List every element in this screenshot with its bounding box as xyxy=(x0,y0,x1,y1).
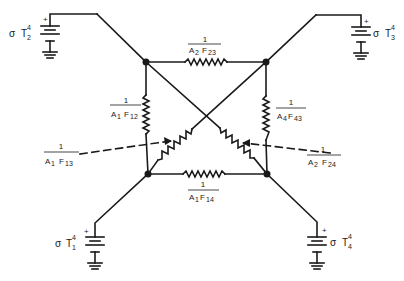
source-t4 xyxy=(267,174,326,269)
svg-text:+: + xyxy=(43,15,48,24)
label-t2: + σ T 2 4 xyxy=(9,15,48,41)
svg-text:1: 1 xyxy=(321,145,326,154)
svg-text:4: 4 xyxy=(72,234,76,241)
source-t2 xyxy=(41,14,97,58)
svg-text:4: 4 xyxy=(283,115,287,122)
label-t3: + σ T 3 4 xyxy=(364,17,395,41)
svg-text:1: 1 xyxy=(51,160,55,167)
svg-text:+: + xyxy=(322,226,327,235)
sigma-symbol: σ xyxy=(9,28,16,39)
svg-text:1: 1 xyxy=(203,35,208,44)
wire-t2 xyxy=(50,14,97,26)
svg-text:1: 1 xyxy=(59,142,64,151)
label-r24: 1 A 2 F 24 xyxy=(307,145,341,168)
wire-t1 xyxy=(95,174,148,237)
svg-text:1: 1 xyxy=(201,180,206,189)
sigma-symbol: σ xyxy=(373,28,380,39)
svg-text:2: 2 xyxy=(314,161,318,168)
svg-text:1: 1 xyxy=(124,96,129,105)
svg-text:3: 3 xyxy=(391,34,395,41)
resistor-r24 xyxy=(146,62,267,174)
node-top-right xyxy=(263,59,270,66)
label-r13: 1 A 1 F 13 xyxy=(44,142,79,167)
svg-text:F: F xyxy=(202,46,207,55)
svg-text:24: 24 xyxy=(328,161,336,168)
svg-text:F: F xyxy=(288,112,293,121)
radiation-network-diagram: + σ T 2 4 + σ T 3 4 + σ T 1 4 + σ T 4 4 … xyxy=(0,0,404,281)
label-t1: + σ T 1 4 xyxy=(55,227,89,251)
node-bottom-left xyxy=(145,171,152,178)
resistor-r23 xyxy=(146,59,266,65)
svg-text:4: 4 xyxy=(27,24,31,31)
resistor-r12 xyxy=(143,62,149,174)
svg-text:F: F xyxy=(322,158,327,167)
label-r14: 1 A 1 F 14 xyxy=(188,180,219,203)
svg-text:2: 2 xyxy=(27,34,31,41)
wire-t2-node xyxy=(97,14,146,62)
sigma-symbol: σ xyxy=(55,238,62,249)
svg-text:4: 4 xyxy=(348,233,352,240)
svg-text:1: 1 xyxy=(195,196,199,203)
resistor-r43 xyxy=(263,62,269,174)
wire-t3-node xyxy=(266,15,316,62)
svg-text:F: F xyxy=(124,110,129,119)
svg-text:43: 43 xyxy=(294,115,302,122)
svg-text:+: + xyxy=(84,227,89,236)
svg-text:12: 12 xyxy=(130,113,138,120)
svg-text:1: 1 xyxy=(289,98,294,107)
svg-text:+: + xyxy=(364,17,369,26)
svg-text:13: 13 xyxy=(65,160,73,167)
sigma-symbol: σ xyxy=(330,237,337,248)
label-r23: 1 A 2 F 23 xyxy=(188,35,221,56)
svg-text:F: F xyxy=(200,193,205,202)
leader-r24 xyxy=(244,143,330,153)
wire-t3 xyxy=(316,15,361,27)
resistor-r14 xyxy=(148,171,267,177)
source-t3 xyxy=(316,15,370,59)
svg-text:1: 1 xyxy=(117,113,121,120)
svg-text:1: 1 xyxy=(72,244,76,251)
svg-text:4: 4 xyxy=(391,24,395,31)
node-bottom-right xyxy=(264,171,271,178)
label-r43: 1 A 4 F 43 xyxy=(276,98,306,122)
svg-text:14: 14 xyxy=(206,196,214,203)
leader-r13 xyxy=(80,141,170,154)
label-r12: 1 A 1 F 12 xyxy=(110,96,141,120)
svg-text:4: 4 xyxy=(348,243,352,250)
svg-text:2: 2 xyxy=(195,49,199,56)
svg-text:F: F xyxy=(59,157,64,166)
svg-text:23: 23 xyxy=(208,49,216,56)
wire-t4 xyxy=(267,174,317,237)
node-top-left xyxy=(143,59,150,66)
label-t4: + σ T 4 4 xyxy=(322,226,352,250)
arrow-r13-icon xyxy=(164,137,172,145)
source-t1 xyxy=(86,174,148,269)
